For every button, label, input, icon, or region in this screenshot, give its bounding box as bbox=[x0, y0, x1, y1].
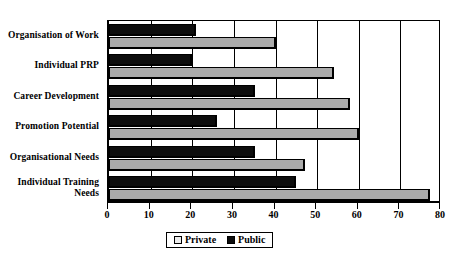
bar-series-container bbox=[109, 21, 439, 201]
category-axis-labels: Organisation of Work Individual PRP Care… bbox=[0, 20, 104, 203]
bar-private bbox=[109, 159, 305, 171]
bar-public bbox=[109, 146, 255, 158]
bar-private bbox=[109, 67, 334, 79]
bar-private bbox=[109, 128, 359, 140]
bar-group bbox=[109, 82, 439, 113]
x-tick-label: 50 bbox=[310, 209, 320, 220]
category-label: Organisational Needs bbox=[0, 142, 104, 173]
public-swatch-icon bbox=[227, 236, 235, 244]
bar-group bbox=[109, 21, 439, 52]
legend-label: Private bbox=[185, 235, 216, 245]
bar-group bbox=[109, 174, 439, 205]
x-tick-label: 0 bbox=[105, 209, 110, 220]
bar-public bbox=[109, 115, 217, 127]
bar-public bbox=[109, 85, 255, 97]
bar-private bbox=[109, 98, 350, 110]
x-tick-label: 10 bbox=[144, 209, 154, 220]
x-tick-label: 60 bbox=[352, 209, 362, 220]
legend-item-public: Public bbox=[227, 235, 265, 245]
bar-group bbox=[109, 52, 439, 83]
legend-item-private: Private bbox=[174, 235, 216, 245]
bar-public bbox=[109, 54, 192, 66]
x-tick-label: 80 bbox=[435, 209, 445, 220]
x-tick-label: 40 bbox=[269, 209, 279, 220]
legend-label: Public bbox=[238, 235, 265, 245]
bar-public bbox=[109, 176, 296, 188]
bar-private bbox=[109, 189, 430, 201]
bar-group bbox=[109, 143, 439, 174]
private-swatch-icon bbox=[174, 236, 182, 244]
chart-legend: Private Public bbox=[166, 232, 273, 248]
category-label: Individual PRP bbox=[0, 51, 104, 82]
x-tick-label: 30 bbox=[227, 209, 237, 220]
category-label: Career Development bbox=[0, 81, 104, 112]
x-axis-tick-labels: 01020304050607080 bbox=[107, 209, 440, 225]
category-label: Promotion Potential bbox=[0, 112, 104, 143]
plot-area bbox=[107, 20, 440, 203]
x-tick-label: 20 bbox=[185, 209, 195, 220]
bar-private bbox=[109, 37, 276, 49]
horizontal-bar-chart: Organisation of Work Individual PRP Care… bbox=[0, 0, 457, 264]
bar-public bbox=[109, 24, 196, 36]
x-tick-label: 70 bbox=[393, 209, 403, 220]
category-label: Individual Training Needs bbox=[0, 173, 104, 204]
bar-group bbox=[109, 113, 439, 144]
category-label: Organisation of Work bbox=[0, 20, 104, 51]
